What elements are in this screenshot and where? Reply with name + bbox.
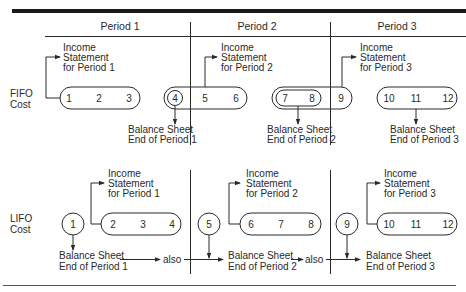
lifo-income-statement-p1: Income Statement for Period 1 xyxy=(108,168,160,199)
lifo-also-label-2: also xyxy=(305,254,324,265)
lifo-unit-10: 10 xyxy=(383,219,395,230)
fifo-unit-4: 4 xyxy=(172,93,178,104)
lifo-unit-7: 7 xyxy=(278,219,284,230)
fifo-row: FIFO Cost 1 2 3 Income Statement for Per… xyxy=(10,42,459,145)
lifo-unit-1: 1 xyxy=(70,219,76,230)
lifo-unit-9: 9 xyxy=(344,219,350,230)
lifo-unit-2: 2 xyxy=(110,219,116,230)
fifo-income-statement-p3: Income Statement for Period 3 xyxy=(360,42,412,73)
lifo-balance-sheet-p3: Balance Sheet End of Period 3 xyxy=(366,250,435,272)
fifo-income-arrow-p3 xyxy=(342,57,356,87)
lifo-unit-6: 6 xyxy=(248,219,254,230)
fifo-income-arrow-p1 xyxy=(46,57,60,98)
period-3-header: Period 3 xyxy=(377,20,416,32)
fifo-unit-12: 12 xyxy=(442,93,454,104)
fifo-unit-1: 1 xyxy=(66,93,72,104)
period-1-header: Period 1 xyxy=(100,20,139,32)
top-rule xyxy=(12,9,466,13)
fifo-row-label: FIFO Cost xyxy=(10,88,36,110)
fifo-unit-10: 10 xyxy=(383,93,395,104)
fifo-income-arrow-p2 xyxy=(205,57,217,87)
lifo-unit-11: 11 xyxy=(411,219,422,230)
period-2-header: Period 2 xyxy=(237,20,276,32)
lifo-income-arrow-p3 xyxy=(367,183,380,224)
fifo-lifo-cost-flow-diagram: Period 1 Period 2 Period 3 FIFO Cost 1 2… xyxy=(0,0,466,292)
lifo-also-label-1: also xyxy=(163,254,182,265)
lifo-income-statement-p3: Income Statement for Period 3 xyxy=(384,168,436,199)
lifo-income-arrow-p1 xyxy=(91,183,104,224)
fifo-balance-sheet-p2: Balance Sheet End of Period 2 xyxy=(267,124,336,145)
lifo-balance-sheet-p2: Balance Sheet End of Period 2 xyxy=(228,250,297,272)
fifo-balance-sheet-p1: Balance Sheet End of Period 1 xyxy=(128,124,197,145)
fifo-income-statement-p2: Income Statement for Period 2 xyxy=(221,42,273,73)
lifo-row-label: LIFO Cost xyxy=(10,213,35,235)
fifo-unit-2: 2 xyxy=(96,93,102,104)
lifo-unit-12: 12 xyxy=(442,219,454,230)
lifo-income-statement-p2: Income Statement for Period 2 xyxy=(246,168,298,199)
period-headers: Period 1 Period 2 Period 3 xyxy=(45,20,466,37)
fifo-unit-5: 5 xyxy=(202,93,208,104)
lifo-unit-8: 8 xyxy=(308,219,314,230)
fifo-unit-3: 3 xyxy=(126,93,132,104)
lifo-income-arrow-p2 xyxy=(229,183,240,224)
fifo-unit-9: 9 xyxy=(338,93,344,104)
lifo-unit-5: 5 xyxy=(206,219,212,230)
fifo-income-statement-p1: Income Statement for Period 1 xyxy=(63,42,115,73)
fifo-unit-8: 8 xyxy=(309,93,315,104)
fifo-unit-7: 7 xyxy=(282,93,288,104)
fifo-balance-sheet-p3: Balance Sheet End of Period 3 xyxy=(390,124,459,145)
fifo-unit-6: 6 xyxy=(233,93,239,104)
fifo-unit-11: 11 xyxy=(411,93,422,104)
lifo-row: LIFO Cost 1 Balance Sheet End of Period … xyxy=(10,168,457,272)
lifo-unit-4: 4 xyxy=(169,219,175,230)
lifo-unit-3: 3 xyxy=(140,219,146,230)
lifo-balance-sheet-p1: Balance Sheet End of Period 1 xyxy=(59,250,128,272)
